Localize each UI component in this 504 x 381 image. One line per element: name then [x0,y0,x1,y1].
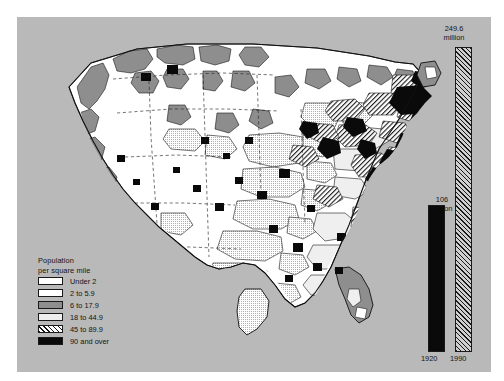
legend-title-line2: per square mile [38,266,146,276]
legend-swatch-45-to-89-9 [38,325,63,333]
legend-label-under-2: Under 2 [70,277,96,286]
legend-swatch-18-to-44-9 [38,313,63,321]
legend-label-18-to-44-9: 18 to 44.9 [70,313,103,322]
figure-page: Population per square mile Under 2 2 to … [0,0,504,381]
legend-label-90-and-over: 90 and over [70,337,109,346]
bar-year-1990: 1990 [450,354,466,363]
bar-label-1990-value: 249.6 [422,24,486,33]
legend-row-under-2: Under 2 [38,276,146,287]
legend-swatch-90-and-over [38,337,63,345]
bar-1990 [455,47,472,352]
bar-label-1990: 249.6 million [422,24,486,43]
legend-row-90-and-over: 90 and over [38,336,146,347]
legend-swatch-6-to-17-9 [38,301,63,309]
legend-row-45-to-89-9: 45 to 89.9 [38,324,146,335]
bar-label-1990-unit: million [422,33,486,42]
population-bar-chart: 249.6 million 106 million 1920 1990 [420,24,490,364]
bar-1920 [428,205,445,352]
legend-swatch-under-2 [38,277,63,285]
map-legend: Population per square mile Under 2 2 to … [38,256,146,360]
legend-label-2-to-5-9: 2 to 5.9 [70,289,95,298]
legend-row-6-to-17-9: 6 to 17.9 [38,300,146,311]
legend-title-line1: Population [38,256,146,266]
legend-label-6-to-17-9: 6 to 17.9 [70,301,99,310]
legend-swatch-2-to-5-9 [38,289,63,297]
legend-row-2-to-5-9: 2 to 5.9 [38,288,146,299]
bar-year-1920: 1920 [421,354,437,363]
legend-label-45-to-89-9: 45 to 89.9 [70,325,103,334]
legend-row-18-to-44-9: 18 to 44.9 [38,312,146,323]
